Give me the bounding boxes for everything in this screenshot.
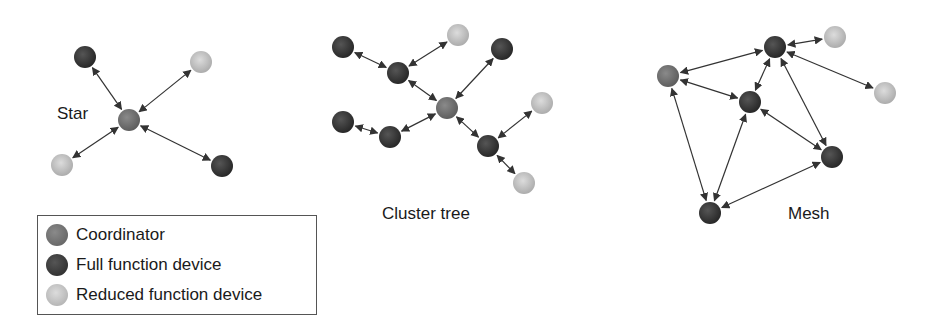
cluster-tree-coordinator-node-icon <box>436 97 458 119</box>
mesh-link <box>722 162 820 207</box>
mesh-full-function-device-node-icon <box>821 146 843 168</box>
cluster-tree-link <box>402 114 436 131</box>
legend-item-reduced-function-device: Reduced function device <box>46 282 262 308</box>
cluster-tree-label: Cluster tree <box>382 204 470 224</box>
star-label: Star <box>57 104 88 124</box>
star-link <box>73 127 118 158</box>
cluster-tree-link <box>409 42 447 66</box>
nodes-layer <box>51 24 896 224</box>
star-link <box>141 126 211 160</box>
cluster-tree-full-function-device-node-icon <box>332 36 354 58</box>
reduced-function-device-node-icon <box>46 284 68 306</box>
full-function-device-node-icon <box>46 254 68 276</box>
cluster-tree-link <box>497 155 515 173</box>
mesh-link <box>788 39 822 45</box>
cluster-tree-link <box>355 126 377 133</box>
star-reduced-function-device-node-icon <box>51 154 73 176</box>
mesh-full-function-device-node-icon <box>739 91 761 113</box>
cluster-tree-link <box>498 111 532 138</box>
legend-item-coordinator: Coordinator <box>46 222 165 248</box>
star-link <box>139 70 191 112</box>
cluster-tree-reduced-function-device-node-icon <box>531 92 553 114</box>
mesh-link <box>681 50 763 72</box>
mesh-reduced-function-device-node-icon <box>824 26 846 48</box>
mesh-link <box>672 88 706 200</box>
cluster-tree-full-function-device-node-icon <box>387 62 409 84</box>
mesh-link <box>755 59 769 90</box>
cluster-tree-full-function-device-node-icon <box>477 135 499 157</box>
mesh-reduced-function-device-node-icon <box>874 82 896 104</box>
legend-item-full-function-device: Full function device <box>46 252 222 278</box>
cluster-tree-link <box>456 59 493 99</box>
cluster-tree-link <box>457 117 479 137</box>
mesh-full-function-device-node-icon <box>699 202 721 224</box>
cluster-tree-full-function-device-node-icon <box>379 126 401 148</box>
coordinator-node-icon <box>46 224 68 246</box>
mesh-link <box>761 109 821 150</box>
mesh-label: Mesh <box>788 204 830 224</box>
mesh-coordinator-node-icon <box>657 65 679 87</box>
cluster-tree-full-function-device-node-icon <box>332 111 354 133</box>
legend: Coordinator Full function device Reduced… <box>37 215 317 315</box>
star-reduced-function-device-node-icon <box>190 51 212 73</box>
mesh-link <box>781 59 826 146</box>
star-coordinator-node-icon <box>118 109 140 131</box>
mesh-link <box>787 52 873 88</box>
legend-label: Coordinator <box>76 225 165 245</box>
star-full-function-device-node-icon <box>74 46 96 68</box>
star-link <box>92 68 121 110</box>
mesh-link <box>714 114 745 201</box>
mesh-link <box>680 80 737 98</box>
cluster-tree-full-function-device-node-icon <box>491 38 513 60</box>
legend-label: Reduced function device <box>76 285 262 305</box>
cluster-tree-link <box>409 81 437 101</box>
mesh-full-function-device-node-icon <box>764 36 786 58</box>
cluster-tree-reduced-function-device-node-icon <box>513 172 535 194</box>
legend-label: Full function device <box>76 255 222 275</box>
cluster-tree-link <box>355 53 386 68</box>
star-full-function-device-node-icon <box>211 155 233 177</box>
cluster-tree-reduced-function-device-node-icon <box>447 24 469 46</box>
